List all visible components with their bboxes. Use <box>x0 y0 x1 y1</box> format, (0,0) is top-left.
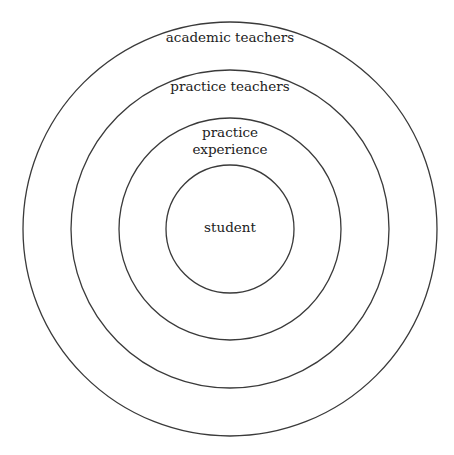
label-practice-experience-line2: experience <box>192 141 267 157</box>
label-student: student <box>204 219 256 235</box>
label-practice-experience-line1: practice <box>202 124 258 140</box>
label-academic-teachers: academic teachers <box>166 29 294 45</box>
label-practice-teachers: practice teachers <box>170 78 289 94</box>
concentric-circles-diagram: academic teachers practice teachers prac… <box>0 0 454 455</box>
